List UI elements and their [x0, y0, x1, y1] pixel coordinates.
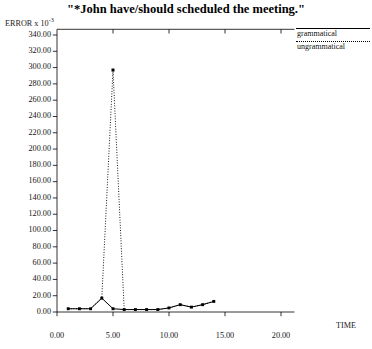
- x-tick-label: 0.00: [35, 331, 79, 340]
- series-marker: [112, 307, 115, 310]
- y-tick-label: 220.00: [3, 128, 51, 137]
- y-tick-label: 40.00: [3, 274, 51, 283]
- y-tick-label: 280.00: [3, 79, 51, 88]
- y-tick-label: 140.00: [3, 193, 51, 202]
- y-tick-label: 160.00: [3, 176, 51, 185]
- y-tick-label: 340.00: [3, 30, 51, 39]
- legend-label-ungrammatical: ungrammatical: [297, 42, 345, 51]
- y-tick-label: 300.00: [3, 62, 51, 71]
- series-line-ungrammatical: [68, 70, 214, 310]
- y-tick-label: 60.00: [3, 258, 51, 267]
- chart-legend: grammatical ungrammatical: [296, 28, 372, 53]
- legend-item-ungrammatical: ungrammatical: [296, 41, 372, 53]
- y-tick-label: 320.00: [3, 46, 51, 55]
- y-tick-label: 240.00: [3, 111, 51, 120]
- y-tick-label: 200.00: [3, 144, 51, 153]
- series-marker-peak: [112, 69, 115, 72]
- y-tick-label: 260.00: [3, 95, 51, 104]
- x-tick-label: 10.00: [147, 331, 191, 340]
- y-tick-label: 0.00: [3, 307, 51, 316]
- y-tick-label: 80.00: [3, 242, 51, 251]
- x-tick-label: 15.00: [203, 331, 247, 340]
- y-tick-label: 100.00: [3, 225, 51, 234]
- x-axis-ticks: [57, 29, 281, 316]
- legend-label-grammatical: grammatical: [297, 29, 337, 38]
- series-ungrammatical: [68, 69, 214, 310]
- x-tick-label: 5.00: [91, 331, 135, 340]
- y-tick-label: 120.00: [3, 209, 51, 218]
- y-axis-ticks: [53, 35, 57, 312]
- x-tick-label: 20.00: [259, 331, 303, 340]
- legend-item-grammatical: grammatical: [296, 28, 372, 40]
- y-tick-label: 20.00: [3, 291, 51, 300]
- y-tick-label: 180.00: [3, 160, 51, 169]
- y-axis-tick-labels: 0.0020.0040.0060.0080.00100.00120.00140.…: [0, 0, 51, 349]
- chart-page: "*John have/should scheduled the meeting…: [0, 0, 372, 349]
- series-marker: [100, 297, 103, 300]
- axis-frame: [57, 29, 294, 312]
- x-axis-tick-labels: 0.005.0010.0015.0020.00: [0, 331, 372, 347]
